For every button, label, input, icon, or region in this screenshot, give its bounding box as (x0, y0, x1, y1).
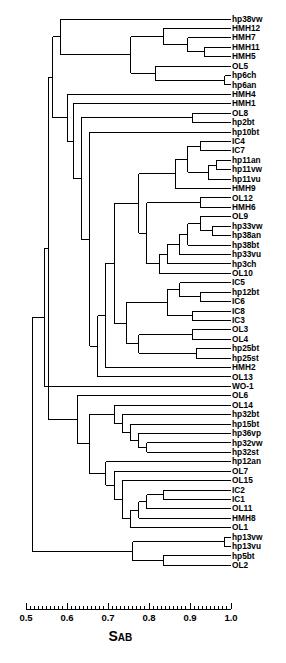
leaf-label: HMH5 (232, 52, 256, 60)
leaf-label: hp36vp (232, 429, 261, 437)
leaf-label: hp12an (232, 457, 261, 465)
leaf-label: hp38vw (232, 15, 262, 23)
leaf-label: HMH2 (232, 363, 256, 371)
leaf-label: OL5 (232, 62, 248, 70)
leaf-label: OL3 (232, 325, 248, 333)
axis-title-main: S (109, 628, 118, 644)
leaf-label: WO-1 (232, 382, 254, 390)
leaf-label: HMH1 (232, 99, 256, 107)
leaf-label: hp32bt (232, 410, 259, 418)
leaf-label: IC2 (232, 486, 245, 494)
leaf-label: hp2bt (232, 118, 255, 126)
leaf-label: OL12 (232, 194, 253, 202)
leaf-label: hp13vu (232, 542, 261, 550)
axis-title: SAB (109, 627, 133, 645)
leaf-label: OL1 (232, 523, 248, 531)
axis-line-and-ticks (26, 603, 231, 609)
leaf-label: hp33vu (232, 250, 261, 258)
leaf-label: hp3ch (232, 260, 256, 268)
leaf-label: hp32st (232, 448, 259, 456)
leaf-label: hp13vw (232, 533, 262, 541)
leaf-label: hp10bt (232, 128, 259, 136)
leaf-label: HMH4 (232, 90, 256, 98)
leaf-label: HMH11 (232, 43, 260, 51)
axis-tick-label: 1.0 (217, 612, 245, 623)
leaf-label: hp11vw (232, 165, 262, 173)
leaf-label: IC7 (232, 146, 245, 154)
leaf-label: IC5 (232, 278, 245, 286)
leaf-label: hp38bt (232, 241, 259, 249)
axis-tick-label: 0.5 (12, 612, 40, 623)
leaf-label: hp15bt (232, 420, 259, 428)
leaf-label: hp33vw (232, 222, 262, 230)
leaf-label: HMH8 (232, 514, 256, 522)
leaf-label: IC3 (232, 316, 245, 324)
leaf-label: OL8 (232, 109, 248, 117)
leaf-label: OL7 (232, 467, 248, 475)
leaf-label: hp11vu (232, 175, 261, 183)
axis-tick-label: 0.7 (94, 612, 122, 623)
leaf-label: OL2 (232, 561, 248, 569)
tree-branch-lines (32, 19, 231, 565)
dendrogram-figure: hp38vwHMH12HMH7HMH11HMH5OL5hp6chhp6anHMH… (0, 0, 286, 663)
leaf-label: HMH12 (232, 24, 260, 32)
leaf-label: hp38an (232, 231, 261, 239)
leaf-label: hp6ch (232, 71, 256, 79)
leaf-label: OL13 (232, 373, 253, 381)
leaf-label: hp11an (232, 156, 261, 164)
leaf-label: hp5bt (232, 552, 255, 560)
leaf-label: IC4 (232, 137, 245, 145)
axis-tick-label: 0.9 (176, 612, 204, 623)
leaf-label: hp25st (232, 354, 259, 362)
leaf-label: hp6an (232, 81, 256, 89)
leaf-label: OL14 (232, 401, 253, 409)
leaf-label: IC1 (232, 495, 245, 503)
leaf-label: OL11 (232, 504, 252, 512)
leaf-label: IC6 (232, 297, 245, 305)
leaf-label: OL10 (232, 269, 253, 277)
leaf-label: HMH9 (232, 184, 256, 192)
leaf-label: HMH6 (232, 203, 256, 211)
leaf-label: OL15 (232, 476, 253, 484)
axis-tick-label: 0.8 (135, 612, 163, 623)
leaf-label: IC8 (232, 307, 245, 315)
leaf-label: OL4 (232, 335, 248, 343)
leaf-label: OL9 (232, 212, 248, 220)
leaf-label: HMH7 (232, 33, 256, 41)
leaf-label: hp32vw (232, 439, 262, 447)
axis-title-subscript: AB (118, 632, 132, 643)
leaf-label: hp25bt (232, 344, 259, 352)
leaf-label: OL6 (232, 391, 248, 399)
axis-tick-label: 0.6 (53, 612, 81, 623)
leaf-label: hp12bt (232, 288, 259, 296)
